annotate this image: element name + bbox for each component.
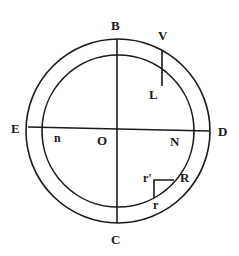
concentric-circles-diagram: B V L E n O N D r' R r C (0, 0, 239, 256)
label-O: O (97, 133, 107, 148)
label-r: r (153, 198, 159, 212)
label-C: C (111, 232, 120, 247)
label-r-prime: r' (143, 171, 152, 185)
label-n: n (54, 131, 61, 145)
inner-circle (42, 55, 194, 207)
label-N: N (170, 134, 180, 149)
label-E: E (11, 121, 20, 136)
label-R: R (180, 170, 190, 185)
label-B: B (111, 18, 120, 33)
label-L: L (149, 87, 158, 102)
label-D: D (218, 124, 227, 139)
label-V: V (158, 28, 168, 43)
